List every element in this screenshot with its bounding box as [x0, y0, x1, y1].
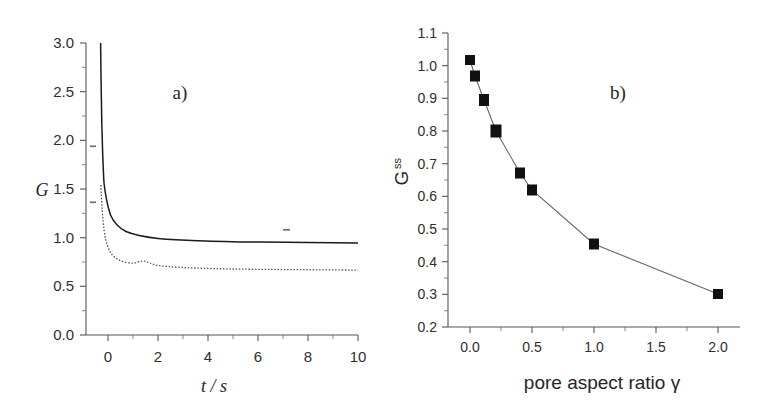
- panel-a-x-axis-title: t / s: [201, 376, 227, 396]
- panel-a-y-axis-title: G: [36, 180, 49, 200]
- data-point-1: [471, 71, 480, 81]
- panel-a-xtick-10: 10: [350, 348, 367, 365]
- panel-b-x-axis-title: pore aspect ratio γ: [524, 372, 681, 393]
- panel-b-xtick-0.5: 0.5: [522, 339, 542, 355]
- panel-b-ytick-1.0: 1.0: [418, 58, 438, 74]
- panel-a-ytick-1.0: 1.0: [53, 229, 74, 246]
- panel-b-xtick-1.0: 1.0: [584, 339, 604, 355]
- panel-b-svg: 1.1 1.0 0.9 0.8 0.7 0.6 0.5 0.4 0.3 0.2 …: [390, 0, 777, 407]
- two-panel-figure: 3.0 2.5 2.0 1.5 1.0 0.5 0.0 0 2 4 6 8 10…: [0, 0, 777, 407]
- panel-a-xtick-4: 4: [204, 348, 212, 365]
- panel-b-ytick-0.4: 0.4: [418, 254, 438, 270]
- panel-b-ytick-1.1: 1.1: [418, 25, 438, 41]
- panel-b-ytick-0.5: 0.5: [418, 221, 438, 237]
- panel-a-x-minor-ticks: [133, 335, 333, 339]
- data-point-2: [480, 95, 489, 106]
- panel-a-label: a): [173, 82, 188, 104]
- panel-a-ytick-1.5: 1.5: [53, 180, 74, 197]
- panel-a-ytick-0.5: 0.5: [53, 277, 74, 294]
- panel-a-scan-artifacts: [90, 146, 290, 231]
- panel-b-markers: [466, 56, 723, 299]
- data-point-5: [528, 185, 537, 195]
- panel-a-svg: 3.0 2.5 2.0 1.5 1.0 0.5 0.0 0 2 4 6 8 10…: [0, 0, 390, 407]
- panel-b-ytick-0.8: 0.8: [418, 123, 438, 139]
- data-point-4: [516, 168, 525, 178]
- panel-a-axes: [86, 43, 358, 335]
- panel-b-y-minor-ticks: [444, 49, 448, 310]
- panel-b-ytick-0.6: 0.6: [418, 188, 438, 204]
- panel-a-ytick-2.0: 2.0: [53, 131, 74, 148]
- panel-b-xtick-0.0: 0.0: [460, 339, 480, 355]
- panel-b-xtick-2.0: 2.0: [708, 339, 728, 355]
- panel-a-xtick-6: 6: [254, 348, 262, 365]
- panel-b-label: b): [610, 82, 626, 104]
- panel-a-solid-curve: [101, 43, 358, 243]
- panel-a-xtick-8: 8: [304, 348, 312, 365]
- data-point-6: [590, 239, 599, 249]
- panel-b-ytick-0.3: 0.3: [418, 286, 438, 302]
- panel-b-steady-state-plot: 1.1 1.0 0.9 0.8 0.7 0.6 0.5 0.4 0.3 0.2 …: [390, 0, 777, 407]
- panel-a-ytick-3.0: 3.0: [53, 34, 74, 51]
- panel-b-y-axis-title-subscript: ss: [391, 158, 403, 170]
- panel-b-ytick-0.2: 0.2: [418, 319, 438, 335]
- panel-a-relaxation-plot: 3.0 2.5 2.0 1.5 1.0 0.5 0.0 0 2 4 6 8 10…: [0, 0, 390, 407]
- panel-b-axes: [448, 33, 740, 327]
- panel-b-x-ticks: [470, 327, 718, 333]
- data-point-0: [466, 56, 475, 65]
- panel-b-xtick-1.5: 1.5: [646, 339, 666, 355]
- panel-b-ytick-0.7: 0.7: [418, 156, 438, 172]
- panel-a-dotted-curve: [101, 185, 358, 270]
- panel-b-y-axis-title: G ss: [391, 158, 412, 186]
- panel-b-series-line: [470, 60, 718, 294]
- data-point-7: [714, 290, 723, 299]
- panel-a-y-ticks: [80, 43, 86, 335]
- panel-b-ytick-0.9: 0.9: [418, 90, 438, 106]
- data-point-3: [491, 125, 501, 137]
- panel-a-xtick-0: 0: [104, 348, 112, 365]
- panel-a-xtick-2: 2: [154, 348, 162, 365]
- panel-b-y-axis-title-main: G: [391, 171, 412, 186]
- panel-a-ytick-0.0: 0.0: [53, 326, 74, 343]
- panel-a-ytick-2.5: 2.5: [53, 83, 74, 100]
